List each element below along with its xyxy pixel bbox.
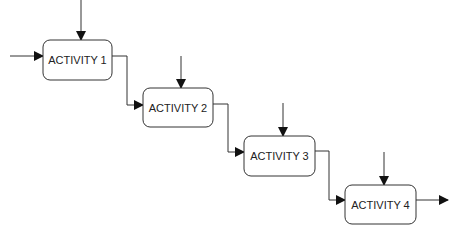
activity-box-1: ACTIVITY 1 xyxy=(43,40,112,80)
connector-2-3 xyxy=(213,104,244,152)
activity-label: ACTIVITY 1 xyxy=(48,54,106,66)
activity-label: ACTIVITY 3 xyxy=(250,150,308,162)
connector-3-4 xyxy=(315,151,345,200)
connector-1-2 xyxy=(112,56,143,105)
activity-label: ACTIVITY 2 xyxy=(149,102,207,114)
activity-box-3: ACTIVITY 3 xyxy=(244,136,315,176)
activity-box-2: ACTIVITY 2 xyxy=(143,88,213,127)
activity-box-4: ACTIVITY 4 xyxy=(345,185,416,224)
process-flow-diagram: ACTIVITY 1 ACTIVITY 2 ACTIVITY 3 ACTIVIT… xyxy=(0,0,453,235)
activity-label: ACTIVITY 4 xyxy=(351,199,409,211)
